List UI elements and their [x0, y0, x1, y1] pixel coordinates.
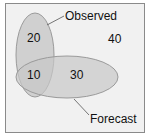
observed-label: Observed	[65, 10, 117, 22]
region-forecast-only: 30	[70, 69, 83, 81]
observed-leader-line	[47, 16, 64, 25]
region-observed-only: 20	[27, 32, 40, 44]
region-neither: 40	[108, 33, 121, 45]
forecast-leader-line	[74, 99, 89, 115]
forecast-label: Forecast	[90, 113, 137, 125]
region-both: 10	[27, 69, 40, 81]
